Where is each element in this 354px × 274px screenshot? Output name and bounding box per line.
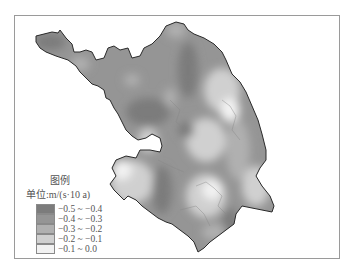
legend-item: −0.3 ~ −0.2 bbox=[26, 224, 126, 234]
legend: 图例 单位:m/(s·10 a) −0.5 ~ −0.4 −0.4 ~ −0.3… bbox=[26, 175, 126, 254]
legend-item: −0.5 ~ −0.4 bbox=[26, 204, 126, 214]
legend-item: −0.1 ~ 0.0 bbox=[26, 244, 126, 254]
legend-title: 图例 bbox=[30, 175, 90, 187]
legend-swatch bbox=[36, 244, 55, 254]
legend-label: −0.1 ~ 0.0 bbox=[58, 244, 97, 254]
legend-swatch bbox=[36, 224, 55, 234]
legend-label: −0.5 ~ −0.4 bbox=[58, 204, 102, 214]
legend-label: −0.4 ~ −0.3 bbox=[58, 214, 102, 224]
legend-label: −0.2 ~ −0.1 bbox=[58, 234, 102, 244]
legend-swatch bbox=[36, 204, 55, 214]
legend-items: −0.5 ~ −0.4 −0.4 ~ −0.3 −0.3 ~ −0.2 −0.2… bbox=[26, 204, 126, 254]
legend-item: −0.2 ~ −0.1 bbox=[26, 234, 126, 244]
legend-label: −0.3 ~ −0.2 bbox=[58, 224, 102, 234]
legend-swatch bbox=[36, 214, 55, 224]
legend-swatch bbox=[36, 234, 55, 244]
legend-item: −0.4 ~ −0.3 bbox=[26, 214, 126, 224]
legend-unit: 单位:m/(s·10 a) bbox=[26, 189, 126, 201]
